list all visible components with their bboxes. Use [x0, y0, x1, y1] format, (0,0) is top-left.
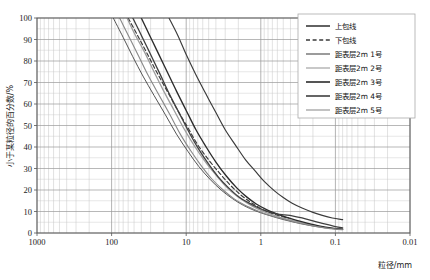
grain-size-distribution-chart: 10001001010.10.01 0102030405060708090100…: [0, 0, 430, 280]
legend-item-label: 距表层2m 1号: [335, 50, 382, 59]
legend-item-label: 上包线: [335, 22, 357, 31]
legend-item-label: 距表层2m 4号: [335, 92, 382, 101]
chart-canvas: 10001001010.10.01 0102030405060708090100…: [0, 0, 430, 280]
x-axis-tick-label: 100: [105, 237, 118, 247]
y-axis-tick-label: 70: [24, 78, 33, 88]
y-axis-tick-label: 90: [24, 35, 33, 45]
x-axis-tick-label: 10: [182, 237, 191, 247]
legend-item-label: 距表层2m 3号: [335, 78, 382, 87]
y-axis-tick-label: 20: [24, 185, 33, 195]
y-axis-tick-label: 0: [28, 228, 32, 238]
chart-legend: 上包线下包线距表层2m 1号距表层2m 2号距表层2m 3号距表层2m 4号距表…: [298, 14, 415, 118]
y-axis-tick-label: 40: [24, 142, 33, 152]
legend-item-label: 距表层2m 2号: [335, 64, 382, 73]
y-axis-title: 小于某粒径的百分数/%: [5, 84, 15, 167]
legend-item-label: 距表层2m 5号: [335, 106, 382, 115]
x-axis-tick-label: 0.01: [403, 237, 418, 247]
y-axis-tick-label: 60: [24, 99, 33, 109]
x-axis-title: 粒径/mm: [378, 260, 412, 270]
y-axis-tick-label: 10: [24, 207, 33, 217]
y-axis-tick-label: 80: [24, 56, 33, 66]
x-axis-tick-label: 1000: [29, 237, 46, 247]
y-axis-tick-label: 50: [24, 121, 33, 131]
x-axis-tick-label: 1: [259, 237, 263, 247]
y-axis-tick-label: 30: [24, 164, 33, 174]
y-axis-tick-label: 100: [19, 13, 32, 23]
x-axis-tick-label: 0.1: [330, 237, 341, 247]
legend-item-label: 下包线: [335, 36, 357, 45]
